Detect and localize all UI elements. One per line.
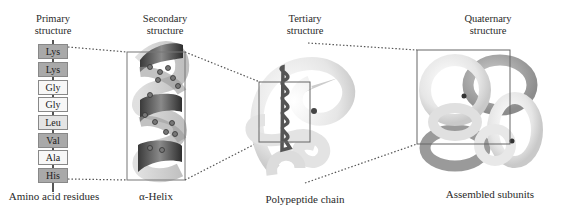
alpha-helix-illustration (138, 43, 183, 175)
assembled-subunits-illustration (425, 60, 537, 166)
protein-structure-artwork (0, 0, 573, 215)
residue-box: Lys (38, 62, 68, 77)
residue-box: Gly (38, 97, 68, 112)
tertiary-caption: Polypeptide chain (255, 193, 355, 205)
residue-box: Leu (38, 115, 68, 130)
secondary-caption: α-Helix (126, 190, 186, 202)
polypeptide-chain-illustration (251, 64, 348, 175)
quaternary-caption: Assembled subunits (440, 188, 540, 200)
connector-primary-secondary (68, 47, 127, 180)
primary-caption: Amino acid residues (4, 190, 104, 202)
residue-box: Gly (38, 80, 68, 95)
residue-box: Val (38, 133, 68, 148)
residue-box: Ala (38, 150, 68, 165)
residue-box: Lys (38, 44, 68, 59)
connector-secondary-tertiary (185, 52, 260, 180)
residue-box: His (38, 168, 68, 183)
